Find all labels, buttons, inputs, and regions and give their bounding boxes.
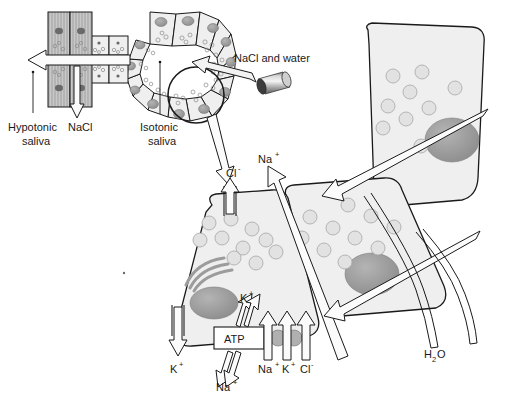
svg-text:Na: Na — [258, 153, 273, 165]
svg-text:2: 2 — [432, 355, 436, 364]
figure-canvas: Hypotonic saliva NaCl Isotonic saliva Na… — [0, 0, 516, 398]
svg-text:Na: Na — [216, 381, 231, 393]
svg-text:O: O — [437, 348, 446, 360]
label-hypotonic-saliva-line2: saliva — [22, 135, 51, 147]
svg-text:+: + — [275, 150, 280, 159]
svg-text:Cl: Cl — [226, 167, 236, 179]
nucleus — [345, 253, 399, 295]
salivary-gland-diagram: Hypotonic saliva NaCl Isotonic saliva Na… — [0, 0, 516, 398]
nucleus — [190, 287, 238, 319]
svg-text:K: K — [170, 363, 178, 375]
label-isotonic-saliva-line2: saliva — [148, 135, 177, 147]
svg-text:Cl: Cl — [300, 363, 310, 375]
label-isotonic-saliva-line1: Isotonic — [140, 121, 178, 133]
label-atp: ATP — [224, 333, 245, 345]
isotonic-saliva-leader-dot — [159, 61, 162, 64]
svg-text:+: + — [249, 289, 254, 298]
label-nacl-and-water: NaCl and water — [234, 52, 310, 64]
svg-text:+: + — [291, 360, 296, 369]
svg-text:H: H — [424, 348, 432, 360]
svg-text:K: K — [282, 363, 290, 375]
svg-text:+: + — [233, 378, 238, 387]
svg-text:K: K — [240, 292, 248, 304]
stray-speck — [123, 272, 125, 274]
label-hypotonic-saliva-line1: Hypotonic — [8, 121, 57, 133]
svg-text:+: + — [275, 360, 280, 369]
svg-text:Na: Na — [258, 363, 273, 375]
label-nacl-duct: NaCl — [68, 121, 92, 133]
svg-text:+: + — [179, 360, 184, 369]
hypotonic-saliva-leader-dot — [32, 71, 35, 74]
